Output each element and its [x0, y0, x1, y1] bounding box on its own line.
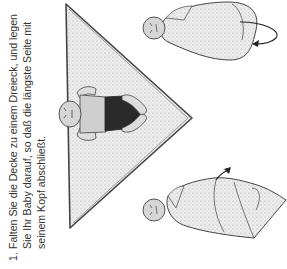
fold-arrow-icon	[224, 167, 231, 174]
baby-wrapped-bottom	[143, 167, 286, 238]
baby-wrapped-top	[143, 2, 277, 60]
swaddle-illustration	[0, 0, 287, 269]
